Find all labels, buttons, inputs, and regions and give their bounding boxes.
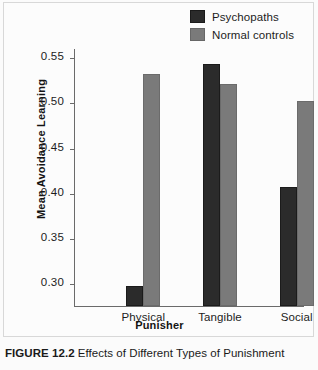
legend-swatch-normal-controls	[190, 28, 205, 41]
bar-physical-normal-controls	[143, 74, 160, 306]
bar-tangible-normal-controls	[220, 84, 237, 306]
y-tick-0.35: 0.35	[70, 239, 74, 240]
figure-caption-text: Effects of Different Types of Punishment	[78, 347, 285, 359]
y-tick-0.30: 0.30	[70, 284, 74, 285]
y-tick-label-0.45: 0.45	[41, 141, 64, 153]
x-axis-line	[74, 306, 304, 307]
bar-tangible-psychopaths	[203, 64, 220, 306]
y-tick-0.40: 0.40	[70, 194, 74, 195]
legend-item-normal-controls: Normal controls	[190, 26, 310, 43]
bar-social-normal-controls	[297, 101, 314, 306]
chart-legend: Psychopaths Normal controls	[190, 8, 310, 44]
figure-caption-label: FIGURE 12.2	[5, 347, 75, 359]
y-tick-0.50: 0.50	[70, 103, 74, 104]
y-tick-label-0.40: 0.40	[41, 186, 64, 198]
y-tick-label-0.55: 0.55	[41, 50, 64, 62]
plot-area: 0.300.350.400.450.500.55 PhysicalTangibl…	[74, 49, 304, 307]
figure-root: Psychopaths Normal controls Mean Avoidan…	[0, 0, 318, 370]
y-tick-label-0.30: 0.30	[41, 276, 64, 288]
bar-physical-psychopaths	[126, 286, 143, 306]
y-tick-0.55: 0.55	[70, 58, 74, 59]
x-axis-title: Punisher	[4, 319, 315, 331]
legend-label-psychopaths: Psychopaths	[212, 11, 279, 23]
y-tick-label-0.35: 0.35	[41, 231, 64, 243]
y-tick-0.45: 0.45	[70, 149, 74, 150]
bar-social-psychopaths	[280, 187, 297, 306]
y-axis-line	[74, 49, 75, 307]
legend-item-psychopaths: Psychopaths	[190, 8, 310, 25]
legend-swatch-psychopaths	[190, 10, 205, 23]
figure-frame: Psychopaths Normal controls Mean Avoidan…	[3, 2, 314, 337]
legend-label-normal-controls: Normal controls	[212, 29, 294, 41]
figure-caption: FIGURE 12.2 Effects of Different Types o…	[5, 347, 315, 359]
y-tick-label-0.50: 0.50	[41, 95, 64, 107]
